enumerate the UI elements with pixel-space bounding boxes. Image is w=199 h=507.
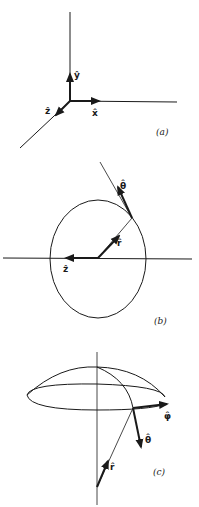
theta-hat-label: θ̂ xyxy=(120,179,126,191)
r-hat-label: r̂ xyxy=(110,462,115,472)
equator-front xyxy=(27,395,165,410)
panel-c-spherical: φ̂ θ̂ r̂ (c) xyxy=(27,352,171,505)
panel-c-caption: (c) xyxy=(153,467,166,477)
dome-arc xyxy=(27,367,165,397)
z-hat-label: ẑ xyxy=(63,264,68,274)
r-hat-arrow xyxy=(97,461,108,487)
x-hat-label: x̂ xyxy=(92,108,98,118)
theta-hat-label: θ̂ xyxy=(145,433,151,445)
unit-vector-diagram: ŷ x̂ ẑ (a) θ̂ r̂ ẑ (b) φ̂ θ̂ r̂ (c) xyxy=(0,0,199,507)
theta-hat-arrow xyxy=(118,187,132,218)
equator-back xyxy=(27,384,165,397)
panel-a-cartesian: ŷ x̂ ẑ (a) xyxy=(20,12,177,148)
panel-b-caption: (b) xyxy=(154,316,167,326)
theta-hat-arrow xyxy=(133,408,141,447)
z-hat-arrow xyxy=(56,101,70,115)
meridian-arc xyxy=(97,367,133,408)
z-hat-label: ẑ xyxy=(45,106,50,116)
phi-hat-label: φ̂ xyxy=(164,411,171,421)
panel-a-caption: (a) xyxy=(156,127,169,137)
y-hat-label: ŷ xyxy=(74,70,80,80)
r-hat-label: r̂ xyxy=(117,238,122,248)
panel-b-polar: θ̂ r̂ ẑ (b) xyxy=(3,162,192,326)
r-hat-arrow xyxy=(98,236,119,258)
